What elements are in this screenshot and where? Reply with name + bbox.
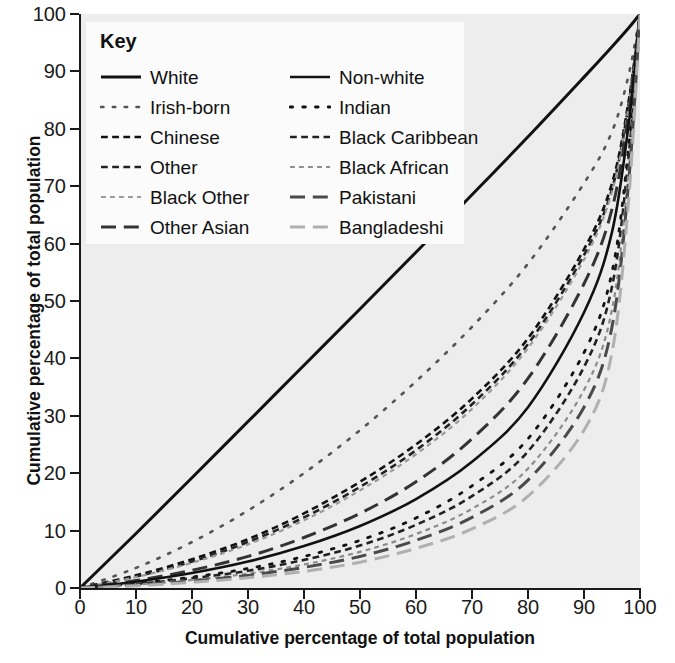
legend-item-irish-born[interactable]: Irish-born <box>86 92 275 122</box>
legend-line-swatch-icon <box>100 190 142 204</box>
legend-line-swatch-icon <box>100 220 142 234</box>
lorenz-curve-figure: 0102030405060708090100 01020304050607080… <box>0 0 675 663</box>
y-tick-mark <box>70 70 79 72</box>
legend-item-label: Black Caribbean <box>339 128 478 147</box>
legend-item-label: Irish-born <box>150 98 230 117</box>
y-tick-mark <box>70 300 79 302</box>
x-tick-label: 90 <box>554 597 614 617</box>
legend-item-bangladeshi[interactable]: Bangladeshi <box>275 212 464 242</box>
x-tick-label: 10 <box>106 597 166 617</box>
y-tick-mark <box>70 530 79 532</box>
legend-item-black-other[interactable]: Black Other <box>86 182 275 212</box>
legend-item-label: Indian <box>339 98 391 117</box>
legend-item-pakistani[interactable]: Pakistani <box>275 182 464 212</box>
legend-line-swatch-icon <box>100 70 142 84</box>
legend-line-swatch-icon <box>100 160 142 174</box>
legend-column-left: WhiteIrish-bornChineseOtherBlack OtherOt… <box>86 62 275 242</box>
y-axis-title: Cumulative percentage of total populatio… <box>24 31 45 591</box>
legend-item-black-african[interactable]: Black African <box>275 152 464 182</box>
legend-item-label: Non-white <box>339 68 425 87</box>
x-tick-label: 100 <box>610 597 670 617</box>
legend-item-label: Black Other <box>150 188 249 207</box>
legend-line-swatch-icon <box>289 160 331 174</box>
legend-line-swatch-icon <box>289 100 331 114</box>
x-tick-label: 80 <box>498 597 558 617</box>
x-axis-title: Cumulative percentage of total populatio… <box>60 628 660 649</box>
x-tick-label: 0 <box>50 597 110 617</box>
y-tick-mark <box>70 415 79 417</box>
y-tick-mark <box>70 587 79 589</box>
y-axis-line <box>79 14 81 590</box>
legend-line-swatch-icon <box>289 130 331 144</box>
x-tick-label: 60 <box>386 597 446 617</box>
legend-item-label: White <box>150 68 199 87</box>
y-tick-label: 100 <box>24 4 66 24</box>
legend-line-swatch-icon <box>289 70 331 84</box>
legend-line-swatch-icon <box>100 130 142 144</box>
legend-item-chinese[interactable]: Chinese <box>86 122 275 152</box>
y-tick-mark <box>70 185 79 187</box>
x-tick-label: 20 <box>162 597 222 617</box>
y-tick-mark <box>70 472 79 474</box>
legend-item-other-asian[interactable]: Other Asian <box>86 212 275 242</box>
legend-line-swatch-icon <box>289 220 331 234</box>
y-tick-mark <box>70 13 79 15</box>
legend-column-right: Non-whiteIndianBlack CaribbeanBlack Afri… <box>275 62 464 242</box>
y-tick-mark <box>70 128 79 130</box>
x-tick-label: 30 <box>218 597 278 617</box>
legend-item-label: Bangladeshi <box>339 218 444 237</box>
legend-item-label: Black African <box>339 158 449 177</box>
legend-item-other[interactable]: Other <box>86 152 275 182</box>
legend-columns: WhiteIrish-bornChineseOtherBlack OtherOt… <box>86 62 464 242</box>
legend-line-swatch-icon <box>100 100 142 114</box>
legend-item-white[interactable]: White <box>86 62 275 92</box>
legend-box: Key WhiteIrish-bornChineseOtherBlack Oth… <box>86 22 464 244</box>
legend-item-indian[interactable]: Indian <box>275 92 464 122</box>
legend-item-label: Pakistani <box>339 188 416 207</box>
y-tick-mark <box>70 243 79 245</box>
x-tick-label: 70 <box>442 597 502 617</box>
legend-item-label: Other <box>150 158 198 177</box>
y-tick-mark <box>70 357 79 359</box>
legend-item-non-white[interactable]: Non-white <box>275 62 464 92</box>
x-tick-label: 40 <box>274 597 334 617</box>
legend-item-label: Other Asian <box>150 218 249 237</box>
legend-title: Key <box>100 30 137 53</box>
x-tick-label: 50 <box>330 597 390 617</box>
legend-line-swatch-icon <box>289 190 331 204</box>
legend-item-black-caribbean[interactable]: Black Caribbean <box>275 122 464 152</box>
legend-item-label: Chinese <box>150 128 220 147</box>
